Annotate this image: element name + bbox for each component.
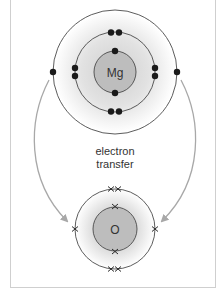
ionic-bond-diagram: Mg electron transfer O <box>0 0 219 293</box>
transfer-label-line1: electron <box>95 145 134 157</box>
oxygen-atom: O <box>72 187 158 272</box>
transfer-label-line2: transfer <box>96 158 134 170</box>
magnesium-atom: Mg <box>50 10 180 134</box>
o-symbol: O <box>110 223 119 237</box>
mg-symbol: Mg <box>107 66 124 80</box>
